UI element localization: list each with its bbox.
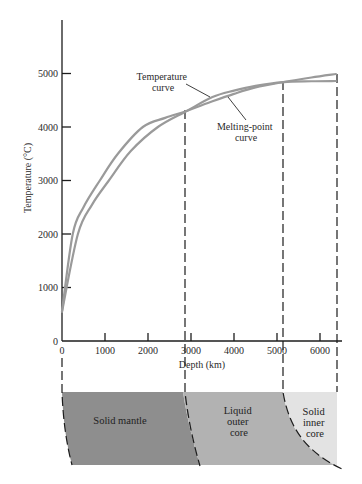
x-tick-label: 1000	[95, 345, 115, 356]
x-tick-label: 4000	[224, 345, 244, 356]
y-tick-label: 5000	[38, 68, 58, 79]
earth-temperature-chart: Solid mantle Liquid outer core Solid inn…	[0, 0, 362, 484]
annotations: Temperature curve Melting-point curve	[137, 71, 275, 143]
y-tick-label: 0	[53, 336, 58, 347]
layer-solid-mantle	[62, 392, 200, 465]
x-tick-label: 5000	[267, 345, 287, 356]
annotation-melting-point-curve: Melting-point curve	[217, 121, 275, 143]
melting-point-curve-pointer	[228, 97, 246, 120]
x-tick-label: 2000	[138, 345, 158, 356]
temperature-curve-pointer	[186, 84, 210, 97]
y-tick-label: 3000	[38, 175, 58, 186]
earth-layers-band: Solid mantle Liquid outer core Solid inn…	[62, 74, 342, 469]
x-axis-ticks: 0100020003000400050006000	[60, 333, 331, 356]
y-tick-label: 2000	[38, 229, 58, 240]
layer-label-solid-mantle: Solid mantle	[93, 415, 147, 426]
x-tick-label: 0	[60, 345, 65, 356]
x-axis-title: Depth (km)	[179, 359, 225, 371]
curves	[62, 74, 336, 312]
y-tick-label: 1000	[38, 282, 58, 293]
x-tick-label: 6000	[310, 345, 330, 356]
y-axis-ticks: 010002000300040005000	[38, 68, 71, 347]
x-tick-label: 3000	[181, 345, 201, 356]
layer-label-solid-inner-core: Solid inner core	[303, 406, 328, 439]
annotation-temperature-curve: Temperature curve	[137, 71, 190, 93]
temperature-curve-line	[62, 81, 336, 312]
melting-point-curve-line	[62, 74, 336, 312]
y-tick-label: 4000	[38, 122, 58, 133]
y-axis-title: Temperature (°C)	[22, 143, 34, 213]
